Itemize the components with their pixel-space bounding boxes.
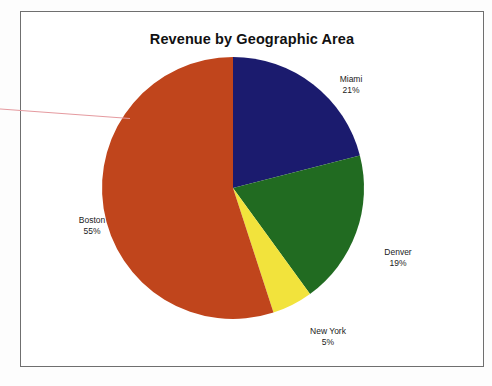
- pie-chart: [0, 0, 472, 375]
- pie-label-new-york-name: New York: [310, 326, 346, 336]
- pointer-line: [0, 108, 130, 119]
- pie-label-denver: Denver 19%: [368, 247, 428, 269]
- pie-label-boston: Boston 55%: [62, 215, 122, 237]
- pie-label-miami-value: 21%: [321, 85, 381, 96]
- pie-label-boston-value: 55%: [62, 226, 122, 237]
- pie-label-miami-name: Miami: [340, 74, 363, 84]
- pie-label-miami: Miami 21%: [321, 74, 381, 96]
- pie-label-new-york: New York 5%: [296, 326, 360, 348]
- pie-label-new-york-value: 5%: [296, 337, 360, 348]
- pie-label-denver-value: 19%: [368, 258, 428, 269]
- chart-screenshot: Revenue by Geographic Area Miami 21% Den…: [0, 0, 492, 386]
- pie-label-boston-name: Boston: [79, 215, 105, 225]
- pie-label-denver-name: Denver: [384, 247, 411, 257]
